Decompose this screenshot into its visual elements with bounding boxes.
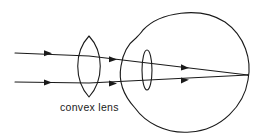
convex-lens-label: convex lens (60, 101, 119, 113)
eye-lens (142, 50, 152, 90)
arrowhead-upper-2 (109, 56, 117, 62)
convex-lens (78, 36, 101, 97)
eye-correction-diagram (0, 0, 261, 136)
arrowhead-lower-1 (44, 79, 52, 85)
focal-point (247, 74, 249, 76)
light-ray-upper (15, 53, 248, 75)
arrowhead-upper-1 (44, 50, 52, 56)
